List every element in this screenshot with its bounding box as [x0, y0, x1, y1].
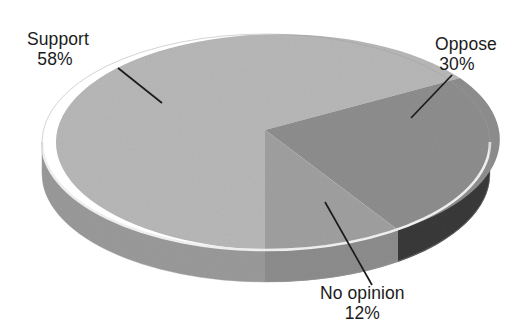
- slice-label-support: Support 58%: [27, 30, 89, 69]
- slice-label-oppose-percent: 30%: [435, 55, 497, 75]
- pie-chart: Support 58% Oppose 30% No opinion 12%: [0, 0, 528, 331]
- slice-label-no-opinion-percent: 12%: [320, 304, 405, 324]
- slice-label-oppose: Oppose 30%: [435, 35, 497, 74]
- slice-label-support-percent: 58%: [27, 50, 89, 70]
- slice-label-oppose-name: Oppose: [435, 35, 497, 55]
- slice-label-no-opinion: No opinion 12%: [320, 284, 405, 323]
- slice-label-no-opinion-name: No opinion: [320, 284, 405, 304]
- slice-label-support-name: Support: [27, 30, 89, 50]
